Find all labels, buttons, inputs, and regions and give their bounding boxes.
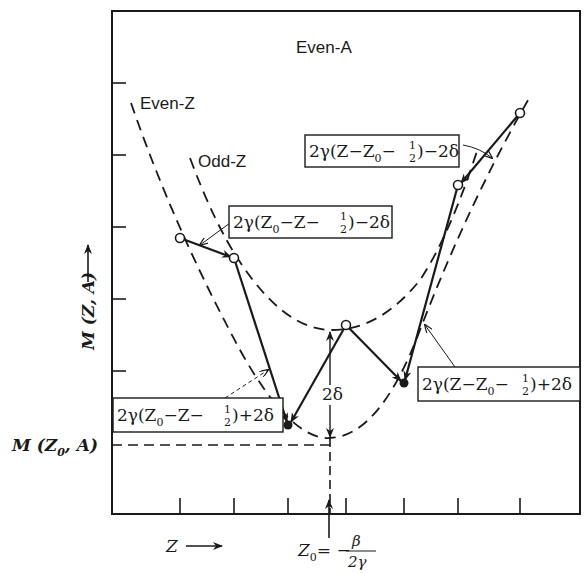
svg-text:2γ: 2γ bbox=[347, 553, 367, 571]
svg-text:1: 1 bbox=[409, 139, 416, 152]
svg-text:1: 1 bbox=[340, 210, 347, 223]
z0-label: Z0= − β 2γ bbox=[297, 532, 376, 571]
svg-text:)−2δ: )−2δ bbox=[348, 212, 390, 232]
svg-text:2: 2 bbox=[522, 385, 529, 398]
formula-box-top-right: 2γ(Z−Z0− 1 2 )−2δ bbox=[305, 135, 459, 167]
even-a-label: Even-A bbox=[296, 38, 352, 57]
odd-z-parabola bbox=[190, 148, 478, 330]
gap-label: 2δ bbox=[322, 384, 343, 404]
leader-upper-left bbox=[200, 223, 230, 245]
svg-text:β: β bbox=[351, 532, 361, 550]
svg-text:Z0= −: Z0= − bbox=[297, 540, 351, 564]
svg-text:2: 2 bbox=[224, 416, 231, 429]
svg-text:)+2δ: )+2δ bbox=[232, 405, 274, 425]
formula-box-upper-left: 2γ(Z0−Z− 1 2 )−2δ bbox=[229, 206, 392, 238]
svg-text:)+2δ: )+2δ bbox=[530, 374, 572, 394]
svg-text:1: 1 bbox=[522, 372, 529, 385]
x-axis-label: Z bbox=[165, 536, 179, 556]
x-axis-ticks bbox=[180, 498, 520, 514]
y-axis-ticks bbox=[112, 83, 126, 371]
svg-text:M (Z, A): M (Z, A) bbox=[78, 272, 98, 351]
m-z0-label: M (Z0, A) bbox=[11, 435, 98, 459]
formula-box-lower-right: 2γ(Z−Z0− 1 2 )+2δ bbox=[418, 367, 580, 401]
svg-text:2: 2 bbox=[340, 223, 347, 236]
svg-text:1: 1 bbox=[224, 403, 231, 416]
mass-parabola-diagram: 2δ Even-A Even-Z Odd-Z 2γ(Z−Z0− 1 bbox=[0, 0, 584, 573]
even-z-label: Even-Z bbox=[140, 94, 195, 113]
y-axis-label: M (Z, A) bbox=[78, 245, 98, 351]
odd-z-label: Odd-Z bbox=[198, 152, 246, 171]
leader-lower-right bbox=[425, 325, 455, 367]
svg-text:2: 2 bbox=[409, 152, 416, 165]
formula-box-lower-left: 2γ(Z0−Z− 1 2 )+2δ bbox=[113, 398, 283, 432]
svg-text:)−2δ: )−2δ bbox=[417, 141, 459, 161]
plot-frame bbox=[112, 11, 580, 514]
